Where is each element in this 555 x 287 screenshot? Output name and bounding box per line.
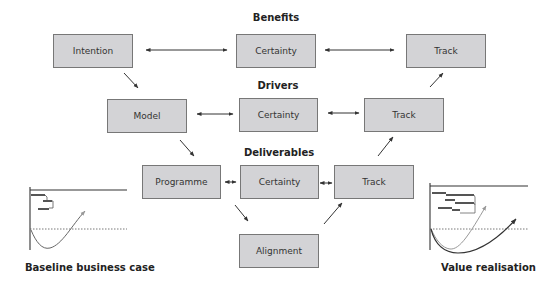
arrow-alignment-to-track — [324, 203, 342, 224]
arrow-drivers-track-to-benefits-track — [430, 73, 443, 87]
arrow-track-to-drivers-track — [378, 137, 393, 156]
caption-baseline-business-case: Baseline business case — [25, 262, 155, 273]
connectors-layer — [0, 0, 555, 287]
value-realisation-chart — [430, 183, 528, 253]
caption-value-realisation: Value realisation — [441, 262, 536, 273]
baseline-chart — [30, 187, 127, 250]
arrow-model-to-programme — [180, 140, 194, 156]
arrow-programme-to-alignment — [235, 205, 248, 221]
arrow-intention-to-model — [124, 73, 138, 88]
